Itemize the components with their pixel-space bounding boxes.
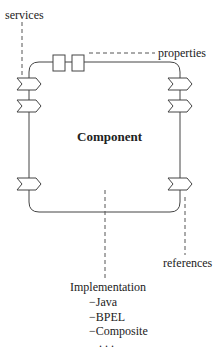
reference-chevron-1: [168, 78, 192, 90]
implementation-item-composite: −Composite: [89, 325, 148, 338]
reference-chevron-2: [168, 100, 192, 112]
property-box-2: [72, 55, 84, 71]
service-chevron-1: [17, 78, 41, 90]
service-chevron-3: [17, 178, 41, 190]
implementation-item-bpel: −BPEL: [89, 311, 125, 324]
implementation-item-java: −Java: [89, 296, 117, 309]
reference-chevron-3: [168, 178, 192, 190]
properties-label: properties: [158, 47, 206, 60]
services-label: services: [5, 9, 44, 22]
implementation-label: Implementation: [70, 281, 146, 294]
references-label: references: [163, 257, 212, 270]
property-box-1: [53, 55, 65, 71]
implementation-item-more: . . .: [99, 337, 114, 350]
component-title: Component: [77, 130, 142, 143]
service-chevron-2: [17, 100, 41, 112]
